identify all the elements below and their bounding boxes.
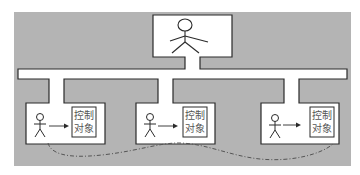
control-object-label-line1: 控制 [185,109,205,121]
control-object-label-line1: 控制 [312,109,332,121]
control-object-label-line2: 对象 [74,122,94,134]
control-object-label-line1: 控制 [74,109,94,121]
control-object-label-line2: 对象 [312,122,332,134]
control-object-label-line2: 对象 [185,122,205,134]
hierarchical-control-diagram: 控制 对象 控制 对象 控制 [0,0,360,175]
